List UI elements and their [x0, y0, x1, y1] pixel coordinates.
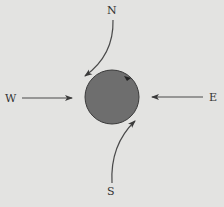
diagram-canvas	[0, 0, 224, 207]
center-circle	[85, 70, 139, 124]
south-arrow	[112, 121, 135, 183]
wind-deflection-diagram: N S W E	[0, 0, 224, 207]
north-arrow	[85, 20, 113, 76]
label-north: N	[107, 5, 117, 16]
label-west: W	[5, 93, 16, 104]
label-east: E	[209, 92, 217, 103]
label-south: S	[107, 186, 115, 197]
